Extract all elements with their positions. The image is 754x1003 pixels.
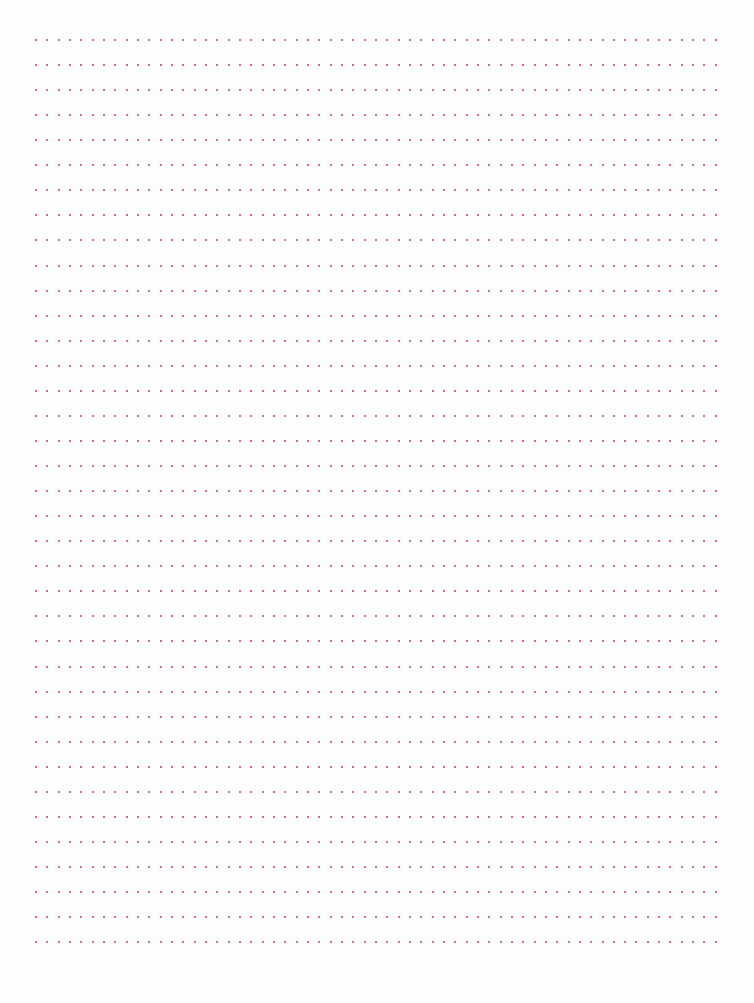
dot	[500, 139, 502, 141]
dot	[126, 114, 128, 116]
dot	[205, 916, 207, 918]
dot	[216, 415, 218, 417]
dot	[262, 290, 264, 292]
dot	[522, 315, 524, 317]
dot	[658, 891, 660, 893]
dot	[80, 766, 82, 768]
dot	[126, 841, 128, 843]
dot	[681, 590, 683, 592]
dot	[522, 39, 524, 41]
dot	[715, 265, 717, 267]
dot	[341, 390, 343, 392]
dot	[703, 916, 705, 918]
dot	[715, 666, 717, 668]
dot	[386, 390, 388, 392]
dot	[46, 590, 48, 592]
dot	[635, 540, 637, 542]
dot	[590, 590, 592, 592]
dot	[69, 415, 71, 417]
dot	[602, 841, 604, 843]
dot	[602, 440, 604, 442]
dot	[318, 816, 320, 818]
dot	[454, 239, 456, 241]
dot	[613, 741, 615, 743]
dot	[239, 89, 241, 91]
dot	[273, 189, 275, 191]
dot	[681, 666, 683, 668]
dot	[205, 941, 207, 943]
dot	[545, 615, 547, 617]
dot	[148, 340, 150, 342]
dot	[69, 615, 71, 617]
dot	[432, 189, 434, 191]
dot	[35, 816, 37, 818]
dot	[568, 164, 570, 166]
dot	[420, 941, 422, 943]
dot-row	[0, 766, 754, 768]
dot	[420, 415, 422, 417]
dot	[511, 465, 513, 467]
dot	[160, 691, 162, 693]
dot	[126, 515, 128, 517]
dot-row	[0, 64, 754, 66]
dot	[692, 239, 694, 241]
dot	[239, 340, 241, 342]
dot	[669, 64, 671, 66]
dot	[92, 265, 94, 267]
dot	[250, 239, 252, 241]
dot	[103, 64, 105, 66]
dot	[624, 741, 626, 743]
dot	[194, 691, 196, 693]
dot	[386, 290, 388, 292]
dot	[477, 214, 479, 216]
dot	[454, 916, 456, 918]
dot	[477, 615, 479, 617]
dot	[307, 290, 309, 292]
dot	[114, 691, 116, 693]
dot	[273, 164, 275, 166]
dot	[579, 465, 581, 467]
dot	[522, 766, 524, 768]
dot	[420, 89, 422, 91]
dot	[715, 290, 717, 292]
dot	[556, 365, 558, 367]
dot	[500, 39, 502, 41]
dot	[500, 766, 502, 768]
dot	[602, 290, 604, 292]
dot	[420, 741, 422, 743]
dot	[454, 214, 456, 216]
dot	[590, 791, 592, 793]
dot	[715, 565, 717, 567]
dot	[386, 139, 388, 141]
dot	[171, 214, 173, 216]
dot	[522, 590, 524, 592]
dot	[703, 139, 705, 141]
dot	[307, 214, 309, 216]
dot	[273, 791, 275, 793]
dot	[386, 816, 388, 818]
dot	[216, 741, 218, 743]
dot	[137, 265, 139, 267]
dot	[228, 39, 230, 41]
dot	[466, 114, 468, 116]
dot	[522, 465, 524, 467]
dot	[58, 465, 60, 467]
dot	[386, 666, 388, 668]
dot	[534, 164, 536, 166]
dot	[341, 64, 343, 66]
dot	[171, 941, 173, 943]
dot	[364, 415, 366, 417]
dot	[454, 340, 456, 342]
dot	[160, 340, 162, 342]
dot	[126, 440, 128, 442]
dot	[330, 540, 332, 542]
dot	[534, 515, 536, 517]
dot	[92, 766, 94, 768]
dot	[137, 540, 139, 542]
dot	[58, 315, 60, 317]
dot	[216, 64, 218, 66]
dot	[262, 565, 264, 567]
dot	[420, 891, 422, 893]
dot	[35, 139, 37, 141]
dot	[443, 791, 445, 793]
